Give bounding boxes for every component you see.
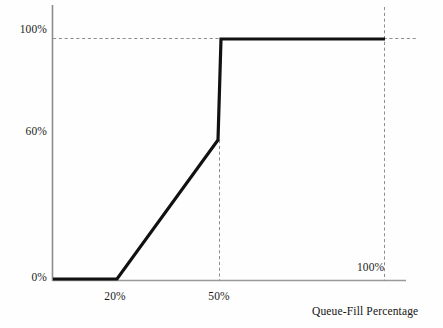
x-axis-tick-label-100: 100%	[357, 261, 427, 273]
x-axis-tick-label-20: 20%	[85, 290, 145, 302]
chart-figure: 100% 60% 0% 20% 50% 100% Queue-Fill Perc…	[0, 0, 443, 328]
y-axis-tick-label-0: 0%	[3, 271, 47, 283]
plot-area	[0, 0, 443, 328]
y-axis-tick-label-100: 100%	[3, 23, 47, 35]
y-axis-tick-label-60: 60%	[3, 125, 47, 137]
x-axis-tick-label-50: 50%	[189, 290, 249, 302]
x-axis-title: Queue-Fill Percentage	[312, 305, 418, 317]
